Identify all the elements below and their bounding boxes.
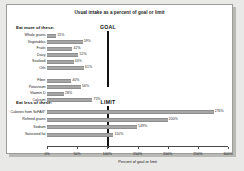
bar-row: 110%Saturated fat — [47, 133, 228, 137]
bar — [47, 34, 56, 38]
bar — [47, 47, 72, 51]
bar-category-label: Fruits — [0, 46, 46, 50]
bar-category-label: Seafood — [0, 59, 46, 63]
bar-row: 59%Vegetables — [47, 40, 228, 44]
bar-value-label: 110% — [115, 132, 124, 136]
x-axis-tick-label: 0% — [44, 152, 49, 156]
bar — [47, 85, 81, 89]
bar-value-label: 40% — [72, 78, 79, 82]
bar-row: 200%Refined grains — [47, 118, 228, 122]
x-axis-tick — [198, 147, 199, 150]
bar-row: 15%Whole grains — [47, 34, 228, 38]
bar-row: 149%Sodium — [47, 125, 228, 129]
bar-value-label: 42% — [74, 46, 81, 50]
bar-category-label: Saturated fat — [0, 132, 46, 136]
bar-row: 276%Calories from SoFAS* — [47, 110, 228, 114]
bar-category-label: Sodium — [0, 125, 46, 129]
bar-category-label: Whole grains — [0, 33, 46, 37]
plot-area: GOAL LIMIT 15%Whole grains59%Vegetables4… — [47, 23, 228, 147]
x-axis-tick — [228, 147, 229, 150]
bar-row: 52%Dairy — [47, 53, 228, 57]
x-axis-tick — [47, 147, 48, 150]
x-axis-tick-label: 150% — [133, 152, 142, 156]
bar — [47, 110, 214, 114]
bar — [47, 60, 74, 64]
x-axis-tick — [77, 147, 78, 150]
bar-value-label: 56% — [82, 84, 89, 88]
bar-category-label: Calcium — [0, 98, 46, 102]
x-axis-title: Percent of goal or limit — [47, 159, 228, 164]
bar-row: 44%Seafood — [47, 60, 228, 64]
bar-row: 40%Fiber — [47, 79, 228, 83]
bar — [47, 125, 137, 129]
bar-value-label: 28% — [65, 91, 72, 95]
x-axis-tick-label: 100% — [103, 152, 112, 156]
bar-value-label: 200% — [169, 117, 178, 121]
chart-card: Usual intake as a percent of goal or lim… — [6, 4, 233, 154]
goal-reference-label: GOAL — [100, 24, 116, 30]
bar-category-label: Vegetables — [0, 40, 46, 44]
x-axis-tick-label: 50% — [74, 152, 81, 156]
x-axis-tick-label: 200% — [163, 152, 172, 156]
bar — [47, 133, 113, 137]
bar-row: 28%Vitamin D — [47, 92, 228, 96]
bar-row: 61%Oils — [47, 66, 228, 70]
x-axis-tick — [107, 147, 108, 150]
bar-category-label: Calories from SoFAS* — [0, 110, 46, 114]
bar-category-label: Potassium — [0, 85, 46, 89]
bar — [47, 79, 71, 83]
bar-value-label: 52% — [80, 52, 87, 56]
bar-value-label: 59% — [84, 39, 91, 43]
bar — [47, 66, 84, 70]
bar — [47, 118, 168, 122]
x-axis-tick — [138, 147, 139, 150]
bar-value-label: 61% — [85, 65, 92, 69]
bar — [47, 53, 78, 57]
bar-value-label: 276% — [215, 109, 224, 113]
bar-value-label: 44% — [75, 59, 82, 63]
bar-value-label: 15% — [57, 33, 64, 37]
bar-category-label: Oils — [0, 66, 46, 70]
bar-category-label: Fiber — [0, 78, 46, 82]
x-axis-tick — [168, 147, 169, 150]
bar — [47, 98, 92, 102]
bar-category-label: Dairy — [0, 53, 46, 57]
chart-title: Usual intake as a percent of goal or lim… — [7, 10, 232, 15]
bar-row: 42%Fruits — [47, 47, 228, 51]
bar-row: 75%Calcium — [47, 98, 228, 102]
bar-value-label: 75% — [93, 97, 100, 101]
screenshot-root: Usual intake as a percent of goal or lim… — [0, 0, 244, 171]
x-axis-tick-label: 250% — [193, 152, 202, 156]
bar — [47, 92, 64, 96]
bar-category-label: Vitamin D — [0, 91, 46, 95]
bar-value-label: 149% — [138, 124, 147, 128]
bar-row: 56%Potassium — [47, 85, 228, 89]
bar — [47, 40, 83, 44]
x-axis-tick-label: 300% — [223, 152, 232, 156]
bar-category-label: Refined grains — [0, 117, 46, 121]
